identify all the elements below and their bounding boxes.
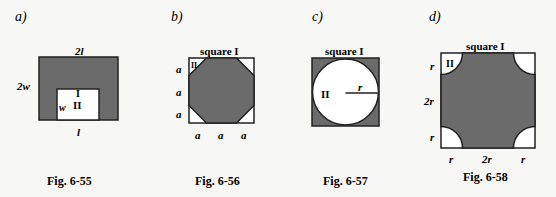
label-bottom-3: r — [521, 153, 526, 165]
title-square-I: square I — [466, 40, 505, 52]
label-bottom-2: 2r — [481, 153, 493, 165]
label-top: 2l — [74, 45, 85, 57]
panel-label-b: b) — [171, 9, 183, 25]
label-left: 2w — [16, 80, 31, 92]
octagon — [189, 58, 254, 123]
label-left-2: a — [176, 86, 182, 98]
label-bottom: l — [77, 126, 81, 138]
figure-6-57: c) square I II r Fig. 6-57 — [312, 9, 379, 188]
figure-6-55: a) 2l 2w l w I II Fig. 6-55 — [15, 9, 118, 188]
title-square-I: square I — [325, 45, 364, 57]
caption-d: Fig. 6-58 — [463, 170, 508, 184]
label-left-1: a — [176, 63, 182, 75]
label-bottom-1: r — [449, 153, 454, 165]
label-left-3: r — [430, 131, 435, 143]
caption-b: Fig. 6-56 — [195, 174, 240, 188]
label-left-1: r — [430, 60, 435, 72]
label-corner-II: II — [191, 61, 197, 70]
panel-label-d: d) — [429, 9, 441, 25]
label-left-2: 2r — [423, 95, 435, 107]
label-region-II: II — [73, 99, 82, 111]
figures-canvas: a) 2l 2w l w I II Fig. 6-55 b) square I … — [0, 0, 556, 197]
figure-6-58: d) square I II r 2r r r 2r r Fig. 6-58 — [423, 9, 535, 184]
label-region-I: I — [76, 88, 80, 99]
label-corner-II: II — [446, 58, 454, 69]
title-square-I: square I — [200, 45, 239, 57]
figure-6-56: b) square I II a a a a a a Fig. 6-56 — [171, 9, 254, 188]
label-inner-side: w — [59, 102, 66, 113]
label-bottom-3: a — [241, 129, 247, 141]
panel-label-c: c) — [312, 9, 323, 25]
label-left-3: a — [176, 108, 182, 120]
panel-label-a: a) — [15, 9, 27, 25]
caption-a: Fig. 6-55 — [47, 174, 92, 188]
label-bottom-2: a — [218, 129, 224, 141]
label-region-II: II — [321, 88, 330, 100]
caption-c: Fig. 6-57 — [323, 174, 368, 188]
label-radius: r — [358, 81, 363, 93]
label-bottom-1: a — [195, 129, 201, 141]
